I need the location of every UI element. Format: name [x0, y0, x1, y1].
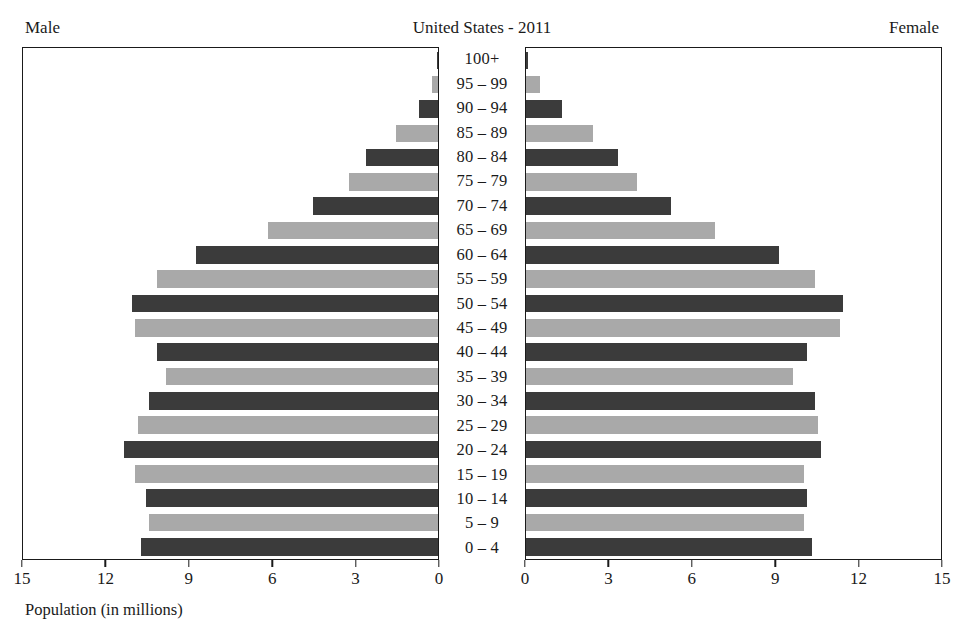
male-bar — [146, 489, 438, 507]
female-x-axis: 03691215 — [525, 560, 942, 590]
axis-tick — [691, 560, 692, 567]
male-x-axis: 15129630 — [22, 560, 439, 590]
bar-row — [23, 389, 438, 413]
bar-row — [23, 48, 438, 72]
bar-row — [526, 486, 941, 510]
bar-row — [526, 48, 941, 72]
axis-tick — [858, 560, 859, 567]
bar-row — [23, 413, 438, 437]
male-bar — [132, 295, 438, 313]
axis-tick — [608, 560, 609, 567]
bar-row — [526, 389, 941, 413]
female-bar — [526, 295, 843, 313]
bar-row — [526, 535, 941, 559]
bar-row — [526, 437, 941, 461]
axis-tick — [355, 560, 356, 567]
male-bar — [313, 197, 438, 215]
female-bar — [526, 222, 715, 240]
age-group-label: 80 – 84 — [439, 145, 525, 169]
bar-row — [23, 97, 438, 121]
bar-row — [526, 170, 941, 194]
male-bar — [141, 538, 438, 556]
male-bar — [157, 270, 438, 288]
axis-tick-label: 15 — [14, 569, 31, 589]
axis-tick-label: 12 — [97, 569, 114, 589]
female-bar — [526, 319, 840, 337]
axis-tick — [21, 560, 22, 567]
age-group-label: 70 – 74 — [439, 194, 525, 218]
bar-row — [526, 291, 941, 315]
female-bar — [526, 416, 818, 434]
bar-row — [23, 218, 438, 242]
female-bar — [526, 100, 562, 118]
axis-tick — [188, 560, 189, 567]
female-bar — [526, 392, 815, 410]
bar-row — [23, 535, 438, 559]
male-bar — [135, 319, 438, 337]
male-bar — [419, 100, 438, 118]
bar-row — [526, 72, 941, 96]
male-bar — [366, 149, 438, 167]
axis-tick-label: 9 — [771, 569, 780, 589]
bar-row — [526, 243, 941, 267]
age-group-label: 25 – 29 — [439, 413, 525, 437]
chart-title: United States - 2011 — [0, 18, 964, 38]
male-plot-panel — [22, 47, 439, 560]
age-group-label: 35 – 39 — [439, 365, 525, 389]
female-bar — [526, 52, 528, 70]
axis-tick — [941, 560, 942, 567]
axis-tick — [774, 560, 775, 567]
age-group-label: 90 – 94 — [439, 96, 525, 120]
bar-row — [23, 364, 438, 388]
axis-tick-label: 9 — [185, 569, 194, 589]
axis-tick-label: 12 — [850, 569, 867, 589]
bar-row — [23, 121, 438, 145]
female-side-label: Female — [889, 18, 939, 38]
female-plot-panel — [525, 47, 942, 560]
male-bar — [396, 125, 438, 143]
age-group-label: 45 – 49 — [439, 316, 525, 340]
bar-row — [23, 462, 438, 486]
male-bar — [166, 368, 438, 386]
female-bar — [526, 441, 821, 459]
age-group-label: 100+ — [439, 47, 525, 71]
axis-tick-label: 6 — [688, 569, 697, 589]
bar-row — [23, 340, 438, 364]
female-bar — [526, 538, 812, 556]
female-bar — [526, 514, 804, 532]
axis-tick-label: 0 — [435, 569, 444, 589]
bar-row — [526, 364, 941, 388]
axis-tick-label: 3 — [351, 569, 360, 589]
axis-tick-label: 6 — [268, 569, 277, 589]
bar-row — [23, 510, 438, 534]
axis-tick-label: 3 — [604, 569, 613, 589]
age-group-label: 95 – 99 — [439, 72, 525, 96]
bar-row — [23, 170, 438, 194]
bar-row — [23, 316, 438, 340]
age-group-label: 85 – 89 — [439, 120, 525, 144]
bar-row — [23, 437, 438, 461]
axis-tick — [524, 560, 525, 567]
bar-row — [23, 291, 438, 315]
bar-row — [526, 218, 941, 242]
bar-row — [23, 145, 438, 169]
female-bar — [526, 197, 671, 215]
male-bar — [196, 246, 438, 264]
age-group-label: 40 – 44 — [439, 340, 525, 364]
bar-row — [526, 121, 941, 145]
x-axis-caption: Population (in millions) — [25, 600, 183, 620]
population-pyramid-chart: Male United States - 2011 Female 0 – 45 … — [0, 0, 964, 641]
bar-row — [526, 267, 941, 291]
age-group-label-column: 0 – 45 – 910 – 1415 – 1920 – 2425 – 2930… — [439, 47, 525, 560]
bar-row — [526, 145, 941, 169]
age-group-label: 30 – 34 — [439, 389, 525, 413]
age-group-label: 5 – 9 — [439, 511, 525, 535]
female-bar — [526, 76, 540, 94]
age-group-label: 20 – 24 — [439, 438, 525, 462]
bar-row — [23, 486, 438, 510]
male-bar-stack — [23, 48, 438, 559]
female-bar — [526, 173, 637, 191]
female-bar — [526, 368, 793, 386]
axis-tick — [438, 560, 439, 567]
age-group-label: 60 – 64 — [439, 243, 525, 267]
